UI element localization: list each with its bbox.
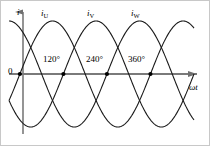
curve-label-iv-sub: V (90, 12, 95, 19)
axis-group (9, 12, 197, 134)
waveform-plot (1, 1, 210, 146)
zero-crossing-marker (18, 72, 22, 76)
curve-label-iu-sub: U (44, 12, 49, 19)
curve-label-iv: iV (87, 9, 94, 18)
y-axis-label: i (17, 8, 20, 17)
angle-label-360: 360° (128, 55, 145, 64)
angle-label-120: 120° (43, 55, 60, 64)
curve-label-iw: iW (131, 9, 140, 18)
curve-label-iw-sub: W (134, 12, 140, 19)
zero-crossing-marker (61, 72, 65, 76)
zero-crossing-marker (148, 72, 152, 76)
angle-label-240: 240° (86, 55, 103, 64)
x-axis-label: ωt (189, 83, 198, 92)
curve-label-iu: iU (41, 9, 48, 18)
three-phase-current-waveform-figure: i ωt 0 iU iV iW 120° 240° 360° (0, 0, 210, 146)
origin-label: 0 (8, 67, 13, 76)
zero-crossing-marker (105, 72, 109, 76)
